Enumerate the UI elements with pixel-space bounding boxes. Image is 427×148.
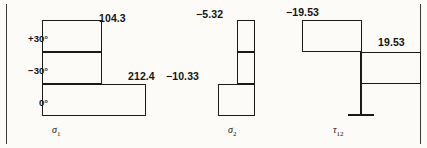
- stress-distribution-figure: +30° −30° 0° 104.3 212.4 σ1 −5.32 −10.33…: [0, 0, 427, 148]
- tau12-datum-stem: [360, 52, 362, 116]
- panel-tau12: −19.53 19.53 τ12: [0, 0, 427, 148]
- tau12-datum-foot: [348, 114, 374, 116]
- tau12-bar-positive: [361, 52, 421, 84]
- caption-tau12: τ12: [333, 124, 344, 138]
- caption-tau12-sub: 12: [337, 130, 344, 138]
- tau12-bar-negative: [302, 20, 362, 52]
- tau12-value-positive: 19.53: [378, 36, 405, 48]
- tau12-value-negative: −19.53: [286, 6, 319, 18]
